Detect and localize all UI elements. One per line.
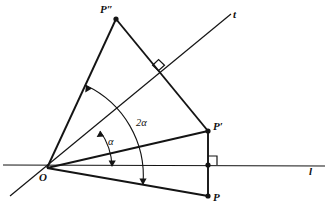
point-foot-on-l-dot	[205, 162, 210, 167]
label-point-p-prime: P′	[213, 121, 223, 132]
segment-o-p-double-prime	[47, 19, 116, 168]
label-point-p-double-prime: P″	[100, 4, 113, 15]
segment-o-p-prime	[47, 131, 208, 168]
point-p-double-prime-dot	[113, 16, 118, 21]
point-p-prime-dot	[205, 128, 210, 133]
label-line-l: l	[309, 166, 312, 177]
geometry-canvas	[0, 0, 329, 214]
label-point-p: P	[213, 192, 220, 203]
point-p-dot	[205, 193, 210, 198]
label-angle-two-alpha: 2α	[136, 118, 147, 129]
line-l	[3, 165, 325, 166]
segment-p-double-prime-p-prime	[116, 19, 208, 131]
label-line-t: t	[233, 9, 236, 20]
two-alpha-arc	[86, 86, 143, 185]
label-angle-alpha: α	[108, 137, 114, 148]
label-origin-o: O	[39, 172, 47, 183]
line-t	[10, 14, 231, 196]
alpha-arc-arrowhead-upper	[97, 131, 105, 137]
segment-o-p	[47, 168, 208, 196]
alpha-arc-arrowhead-lower	[109, 161, 116, 167]
two-alpha-arc-arrowhead-upper	[85, 85, 92, 93]
geometry-figure: P″ P′ P O l t α 2α	[0, 0, 329, 214]
